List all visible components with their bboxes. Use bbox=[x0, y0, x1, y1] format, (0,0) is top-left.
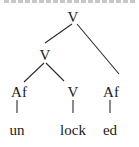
node-af-right: Af bbox=[103, 84, 119, 100]
node-af-left: Af bbox=[11, 84, 27, 100]
edge-v-mid-af-left bbox=[24, 63, 44, 82]
tree-svg: V V Af V Af un lock ed bbox=[0, 0, 139, 147]
node-root: V bbox=[68, 9, 79, 25]
leaf-un: un bbox=[10, 122, 26, 138]
tree-diagram: V V Af V Af un lock ed bbox=[0, 0, 139, 147]
leaf-lock: lock bbox=[60, 122, 86, 138]
leaf-ed: ed bbox=[103, 122, 118, 138]
edge-root-af-right bbox=[77, 24, 119, 74]
node-v-mid: V bbox=[40, 47, 51, 63]
edge-v-mid-v-low bbox=[46, 63, 64, 81]
node-v-low: V bbox=[68, 84, 79, 100]
edge-root-v-mid bbox=[45, 24, 72, 43]
